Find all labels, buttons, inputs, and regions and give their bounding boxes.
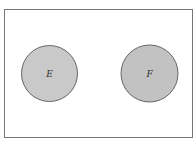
set-f-label: F	[145, 69, 153, 79]
set-e: E	[22, 46, 78, 102]
venn-diagram: E F	[0, 0, 196, 143]
set-f: F	[121, 45, 178, 102]
set-e-label: E	[45, 69, 53, 79]
